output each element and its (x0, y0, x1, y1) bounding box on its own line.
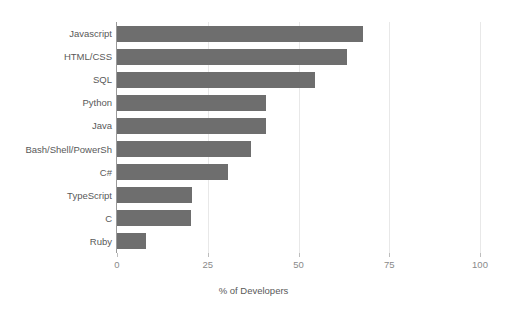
category-label: SQL (0, 68, 112, 91)
x-tick-label: 0 (114, 259, 119, 270)
x-axis-title: % of Developers (0, 285, 507, 296)
x-tick-mark (117, 253, 118, 257)
bar (117, 118, 266, 134)
bar (117, 164, 228, 180)
bar-row (117, 45, 480, 68)
x-tick-mark (208, 253, 209, 257)
bar (117, 187, 192, 203)
x-tick-mark (389, 253, 390, 257)
x-tick-mark (299, 253, 300, 257)
category-label: C (0, 207, 112, 230)
category-label: C# (0, 161, 112, 184)
category-label: HTML/CSS (0, 45, 112, 68)
bar-chart: JavascriptHTML/CSSSQLPythonJavaBash/Shel… (0, 0, 507, 315)
category-label: Bash/Shell/PowerSh (0, 138, 112, 161)
category-label: Ruby (0, 230, 112, 253)
bar-row (117, 230, 480, 253)
bar (117, 233, 146, 249)
x-tick-label: 25 (202, 259, 213, 270)
bar-row (117, 22, 480, 45)
x-tick-label: 100 (472, 259, 488, 270)
bar (117, 141, 251, 157)
bar (117, 26, 363, 42)
x-tick-label: 75 (384, 259, 395, 270)
bar-row (117, 114, 480, 137)
x-tick-mark (480, 253, 481, 257)
bar (117, 72, 315, 88)
bar (117, 49, 347, 65)
category-axis-labels: JavascriptHTML/CSSSQLPythonJavaBash/Shel… (0, 22, 112, 253)
gridline (480, 22, 481, 253)
bar-row (117, 68, 480, 91)
category-label: Java (0, 114, 112, 137)
category-label: Python (0, 91, 112, 114)
bar (117, 210, 191, 226)
bar-row (117, 207, 480, 230)
bar-row (117, 184, 480, 207)
bar-row (117, 91, 480, 114)
bar-row (117, 138, 480, 161)
category-label: TypeScript (0, 184, 112, 207)
x-tick-label: 50 (293, 259, 304, 270)
bar-row (117, 161, 480, 184)
bar (117, 95, 266, 111)
plot-area (117, 22, 480, 253)
category-label: Javascript (0, 22, 112, 45)
